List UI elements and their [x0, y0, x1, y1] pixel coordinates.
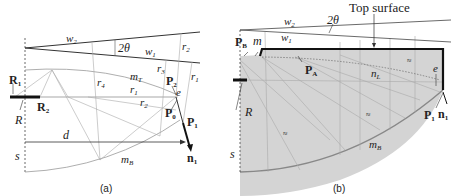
ray-set — [15, 33, 192, 160]
exit-segment — [176, 97, 183, 123]
label-R-b: R — [244, 105, 253, 119]
w2-line-b — [240, 20, 451, 30]
d-arrowhead-icon — [180, 140, 186, 145]
label-n1: n1 — [187, 151, 198, 166]
panel-b: ≈ ≈ ≈ Top surface w2 w1 2θ PB m PA nL e … — [230, 0, 451, 196]
label-R2: R2 — [37, 100, 50, 115]
caption-a: (a) — [100, 183, 112, 194]
label-P1: P1 — [187, 115, 198, 130]
R-pointer — [20, 100, 23, 110]
label-top-surface: Top surface — [349, 0, 410, 15]
hatch-mark: ≈ — [407, 56, 412, 65]
mB-curve — [25, 120, 180, 172]
label-P1-b: P1 — [424, 108, 435, 123]
panel-a: w2 w1 2θ r2 r3 r1 r4 r1 r2 mT mB R1 R2 R… — [9, 32, 200, 194]
label-PB: PB — [235, 35, 247, 50]
label-e-b: e — [433, 62, 438, 74]
w2-line — [25, 32, 200, 48]
label-mT: mT — [130, 70, 143, 84]
caption-b: (b) — [333, 183, 345, 194]
label-s-b: s — [230, 147, 235, 161]
label-r1-mid: r1 — [130, 83, 138, 97]
hatch-mark: ≈ — [283, 129, 288, 138]
label-2theta-b: 2θ — [327, 13, 339, 27]
label-P0: P0 — [165, 106, 176, 121]
label-R: R — [14, 113, 23, 127]
figure-canvas: w2 w1 2θ r2 r3 r1 r4 r1 r2 mT mB R1 R2 R… — [0, 0, 451, 196]
hatch-mark: ≈ — [366, 110, 371, 119]
label-R1: R1 — [9, 73, 22, 88]
label-d: d — [63, 128, 70, 142]
label-r1-right: r1 — [191, 70, 199, 84]
w1-line — [25, 48, 200, 63]
n1-arrow-b — [443, 92, 447, 104]
label-r3: r3 — [157, 62, 165, 76]
label-r4: r4 — [97, 76, 105, 90]
PB-pointer — [244, 52, 248, 56]
label-s: s — [15, 149, 20, 163]
label-r2-mid: r2 — [140, 96, 148, 110]
label-mB: mB — [121, 153, 134, 167]
label-n1-b: n1 — [438, 107, 449, 122]
label-e: e — [176, 86, 181, 98]
top-surface-arrowhead-icon — [372, 43, 376, 48]
label-2theta: 2θ — [118, 41, 130, 55]
label-w2-b: w2 — [284, 15, 295, 29]
label-w2: w2 — [66, 32, 77, 46]
w1-line-b — [240, 30, 451, 42]
label-w1: w1 — [145, 45, 156, 59]
lens-body — [240, 49, 443, 196]
label-r2: r2 — [182, 40, 190, 54]
label-m: m — [253, 34, 262, 48]
